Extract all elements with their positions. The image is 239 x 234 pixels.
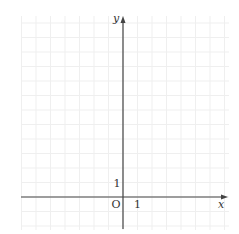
- x-axis-label: x: [218, 198, 225, 211]
- y-axis-arrow-icon: [121, 16, 126, 23]
- axes: [21, 16, 228, 229]
- y-tick-label-1: 1: [114, 177, 121, 190]
- y-axis-label: y: [112, 12, 120, 25]
- coordinate-plane: x y O 1 1: [0, 0, 239, 234]
- origin-label: O: [111, 198, 120, 211]
- grid-lines: [21, 16, 229, 230]
- x-tick-label-1: 1: [134, 198, 141, 211]
